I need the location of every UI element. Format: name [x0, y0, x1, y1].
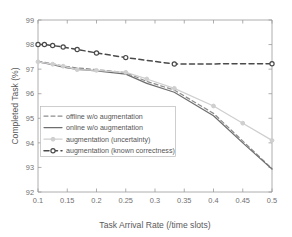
- x-tick-label: 0.1: [33, 196, 43, 205]
- y-tick-label: 98: [26, 40, 34, 49]
- x-axis-tick-labels: 0.10.150.20.250.30.350.40.450.5: [33, 196, 277, 205]
- x-tick-label: 0.35: [177, 196, 191, 205]
- series-marker-2: [172, 86, 176, 90]
- series-marker-3: [36, 42, 40, 46]
- y-tick-label: 95: [26, 114, 34, 123]
- series-marker-2: [270, 139, 274, 143]
- legend-label-2: augmentation (uncertainty): [66, 136, 150, 144]
- y-axis-tick-labels: 9293949596979899: [26, 16, 34, 197]
- axes-frame: [38, 20, 272, 192]
- line-chart-canvas: 9293949596979899 0.10.150.20.250.30.350.…: [0, 0, 292, 237]
- legend-marker-3: [51, 149, 55, 153]
- series-marker-3: [61, 45, 65, 49]
- series-marker-2: [61, 64, 65, 68]
- legend-label-0: offline w/o augmentation: [66, 113, 143, 121]
- y-tick-label: 97: [26, 65, 34, 74]
- chart-legend: offline w/o augmentationonline w/o augme…: [41, 107, 176, 157]
- x-tick-label: 0.25: [119, 196, 133, 205]
- x-tick-label: 0.2: [91, 196, 101, 205]
- x-tick-label: 0.4: [208, 196, 218, 205]
- series-marker-3: [51, 43, 55, 47]
- series-marker-3: [270, 62, 274, 66]
- x-axis-title: Task Arrival Rate (/time slots): [99, 220, 210, 230]
- x-tick-label: 0.45: [236, 196, 250, 205]
- y-axis-title: Completed Task (%): [10, 67, 20, 144]
- chart-figure: 9293949596979899 0.10.150.20.250.30.350.…: [0, 0, 292, 237]
- series-marker-3: [124, 55, 128, 59]
- x-tick-label: 0.15: [60, 196, 74, 205]
- series-marker-2: [75, 68, 79, 72]
- series-marker-2: [124, 70, 128, 74]
- series-marker-3: [172, 62, 176, 66]
- series-marker-2: [212, 104, 216, 108]
- y-tick-label: 96: [26, 89, 34, 98]
- legend-label-3: augmentation (known correctness): [66, 147, 175, 155]
- series-line-3: [38, 45, 272, 64]
- legend-label-1: online w/o augmentation: [66, 124, 143, 132]
- series-marker-2: [145, 77, 149, 81]
- y-tick-label: 99: [26, 16, 34, 25]
- series-marker-2: [36, 60, 40, 64]
- series-marker-3: [94, 51, 98, 55]
- series-marker-2: [51, 62, 55, 66]
- x-tick-label: 0.3: [150, 196, 160, 205]
- series-marker-2: [241, 121, 245, 125]
- series-marker-3: [75, 47, 79, 51]
- series-marker-3: [42, 42, 46, 46]
- x-tick-label: 0.5: [267, 196, 277, 205]
- axis-tick-marks: [38, 20, 272, 192]
- series-marker-2: [95, 68, 99, 72]
- y-tick-label: 94: [26, 139, 34, 148]
- legend-marker-2: [51, 137, 55, 141]
- y-tick-label: 93: [26, 163, 34, 172]
